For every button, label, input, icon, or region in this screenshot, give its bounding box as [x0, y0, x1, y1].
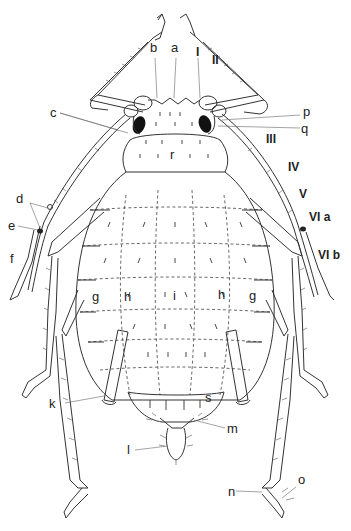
label-antenna-VIa: VI a	[309, 210, 331, 224]
pronotum	[123, 134, 228, 172]
label-e: e	[8, 218, 15, 233]
label-antenna-IV: IV	[288, 160, 299, 174]
label-b: b	[150, 40, 157, 55]
label-f: f	[10, 251, 14, 266]
label-antenna-III: III	[266, 132, 276, 146]
siphunculi	[102, 330, 250, 404]
hind-legs	[56, 290, 294, 518]
label-o: o	[298, 472, 305, 487]
label-m: m	[227, 421, 238, 436]
front-legs	[90, 14, 267, 114]
label-r: r	[170, 147, 175, 162]
label-antenna-VIb: VI b	[318, 248, 340, 262]
label-g-left: g	[92, 289, 99, 304]
label-c: c	[50, 105, 57, 120]
head	[124, 96, 226, 136]
label-q: q	[301, 121, 308, 136]
label-d: d	[16, 191, 23, 206]
label-h-right: h	[218, 287, 225, 302]
label-k: k	[49, 396, 56, 411]
label-l: l	[127, 442, 130, 457]
aphid-diagram: b a I II c p q III r IV d V VI a e VI b …	[0, 0, 351, 531]
label-antenna-V: V	[299, 187, 307, 201]
label-antenna-II: II	[212, 53, 219, 67]
label-p: p	[303, 104, 310, 119]
label-g-right: g	[249, 288, 256, 303]
abdomen	[76, 172, 274, 400]
label-n: n	[228, 484, 235, 499]
label-s: s	[205, 390, 212, 405]
label-antenna-I: I	[196, 45, 199, 59]
label-a: a	[171, 40, 179, 55]
label-i: i	[173, 288, 176, 303]
antennae	[10, 114, 334, 300]
label-h-left: h	[124, 289, 131, 304]
leader-lines	[18, 58, 300, 498]
aphid-illustration: b a I II c p q III r IV d V VI a e VI b …	[0, 0, 351, 531]
